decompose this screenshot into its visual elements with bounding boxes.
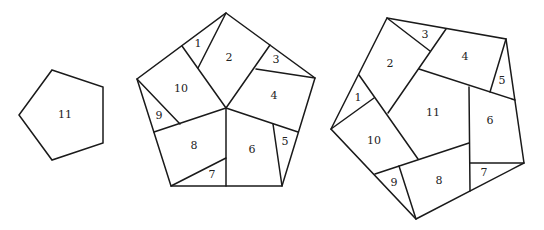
piece-label: 8 [191, 139, 198, 152]
piece-label: 5 [282, 135, 289, 148]
cut-line [469, 87, 470, 191]
piece-label: 8 [436, 174, 443, 187]
piece-label: 2 [226, 51, 233, 64]
cut-line [256, 69, 315, 78]
irregular-pentagon-dissection: 1 2 3 4 5 6 7 8 9 10 11 [331, 18, 524, 219]
piece-label: 3 [273, 53, 280, 66]
piece-label: 4 [462, 50, 469, 63]
piece-label: 11 [426, 106, 440, 119]
piece-label: 7 [209, 168, 216, 181]
cut-line [375, 143, 469, 174]
piece-label: 1 [355, 91, 362, 104]
regular-pentagon-dissection: 1 2 3 4 5 6 7 8 9 10 [137, 13, 315, 186]
piece-label: 9 [391, 176, 398, 189]
piece-label: 9 [156, 109, 163, 122]
cut-line [331, 98, 374, 129]
piece-label: 7 [481, 166, 488, 179]
piece-label: 3 [422, 28, 429, 41]
cut-line [198, 13, 226, 68]
piece-label: 4 [271, 89, 278, 102]
cut-line [171, 158, 226, 186]
cut-line [226, 45, 270, 108]
whole-pentagon: 11 [19, 70, 103, 160]
piece-label: 10 [174, 82, 188, 95]
piece-label: 11 [58, 108, 72, 121]
piece-label: 6 [249, 143, 256, 156]
cut-line [273, 124, 282, 186]
cut-line [226, 108, 298, 132]
piece-label: 10 [367, 134, 381, 147]
cut-line [154, 108, 226, 132]
piece-label: 5 [499, 74, 506, 87]
piece-label: 6 [487, 114, 494, 127]
piece-label: 1 [195, 37, 202, 50]
piece-label: 2 [387, 57, 394, 70]
